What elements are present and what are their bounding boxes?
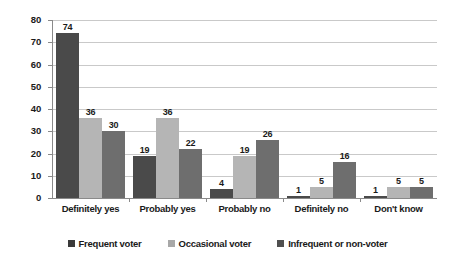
bar-value-label: 30 xyxy=(99,120,129,130)
bar[interactable] xyxy=(133,156,156,198)
x-axis-category-label: Don't know xyxy=(344,203,454,214)
bar-group: 193622 xyxy=(129,20,206,198)
y-axis-tick-label: 60 xyxy=(11,59,41,70)
bar-value-label: 36 xyxy=(76,107,106,117)
bar-value-label: 19 xyxy=(230,145,260,155)
legend-item[interactable]: Occasional voter xyxy=(168,238,252,249)
bar[interactable] xyxy=(102,131,125,198)
y-axis-tick-label: 20 xyxy=(11,148,41,159)
legend: Frequent voterOccasional voterInfrequent… xyxy=(0,238,455,249)
bar-value-label: 16 xyxy=(330,151,360,161)
legend-swatch-icon xyxy=(168,240,175,247)
bar[interactable] xyxy=(310,187,333,198)
bar-value-label: 19 xyxy=(130,145,160,155)
legend-swatch-icon xyxy=(277,240,284,247)
y-axis-line xyxy=(52,20,53,198)
y-axis-tick-label: 70 xyxy=(11,36,41,47)
y-axis-tick-label: 40 xyxy=(11,103,41,114)
x-axis-tick-mark xyxy=(206,198,207,202)
legend-label: Infrequent or non-voter xyxy=(288,238,387,249)
bar-value-label: 5 xyxy=(407,176,437,186)
bar-group: 1516 xyxy=(283,20,360,198)
y-axis-tick-label: 30 xyxy=(11,125,41,136)
bar-value-label: 22 xyxy=(176,138,206,148)
bar[interactable] xyxy=(210,189,233,198)
x-axis-tick-mark xyxy=(283,198,284,202)
bar-group: 41926 xyxy=(206,20,283,198)
x-axis-tick-mark xyxy=(129,198,130,202)
bar[interactable] xyxy=(156,118,179,198)
bar-group: 155 xyxy=(360,20,437,198)
bar[interactable] xyxy=(233,156,256,198)
bar[interactable] xyxy=(256,140,279,198)
bar-value-label: 36 xyxy=(153,107,183,117)
bar-value-label: 74 xyxy=(53,22,83,32)
legend-item[interactable]: Infrequent or non-voter xyxy=(277,238,387,249)
legend-label: Occasional voter xyxy=(179,238,252,249)
bar-value-label: 4 xyxy=(207,178,237,188)
bar[interactable] xyxy=(387,187,410,198)
y-axis-tick-label: 50 xyxy=(11,81,41,92)
x-axis-tick-mark xyxy=(360,198,361,202)
bar-value-label: 26 xyxy=(253,129,283,139)
bar[interactable] xyxy=(333,162,356,198)
legend-label: Frequent voter xyxy=(79,238,142,249)
bar-group: 743630 xyxy=(52,20,129,198)
bar[interactable] xyxy=(179,149,202,198)
bar-value-label: 5 xyxy=(307,176,337,186)
plot-area: 743630193622419261516155 xyxy=(52,20,437,198)
legend-swatch-icon xyxy=(68,240,75,247)
bar-chart: 743630193622419261516155 010203040506070… xyxy=(0,0,455,263)
y-axis-tick-label: 80 xyxy=(11,14,41,25)
y-axis-tick-label: 0 xyxy=(11,192,41,203)
x-axis-line xyxy=(52,198,437,199)
bar-value-label: 1 xyxy=(284,185,314,195)
bar[interactable] xyxy=(410,187,433,198)
y-axis-tick-label: 10 xyxy=(11,170,41,181)
legend-item[interactable]: Frequent voter xyxy=(68,238,142,249)
bar-value-label: 1 xyxy=(361,185,391,195)
